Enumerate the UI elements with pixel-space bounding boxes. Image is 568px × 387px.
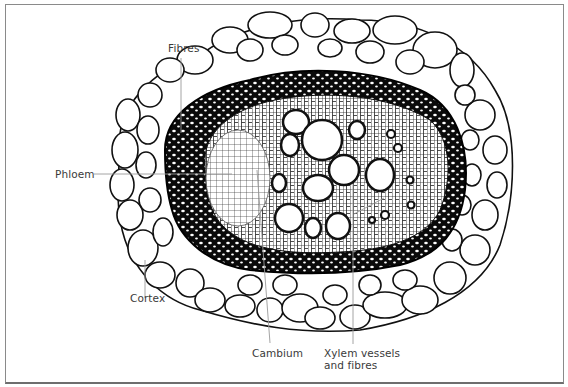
label-cambium: Cambium xyxy=(252,347,303,359)
label-phloem: Phloem xyxy=(55,168,95,180)
label-cortex: Cortex xyxy=(130,292,165,304)
label-xylem-line2: and fibres xyxy=(324,359,377,371)
stem-cross-section-illustration xyxy=(0,0,568,387)
label-fibres: Fibres xyxy=(168,42,199,54)
label-xylem-line1: Xylem vessels xyxy=(324,347,400,359)
